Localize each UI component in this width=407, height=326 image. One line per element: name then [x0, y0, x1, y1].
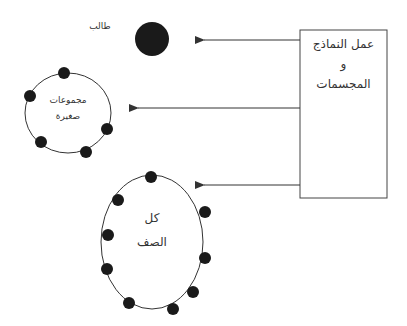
source-box-line3: المجسمات — [300, 74, 387, 94]
small-groups-label-line1: مجموعات — [38, 92, 98, 108]
source-box-label: عمل النماذج و المجسمات — [300, 34, 387, 94]
student-dot — [135, 22, 169, 56]
whole-class-label-line2: الصف — [124, 230, 180, 254]
student-label: طالب — [80, 21, 120, 31]
small-groups-label-line2: صغيرة — [38, 108, 98, 124]
small-groups-label: مجموعات صغيرة — [38, 92, 98, 124]
whole-class-label-line1: كل — [124, 206, 180, 230]
whole-class-label: كل الصف — [124, 206, 180, 254]
source-box-line1: عمل النماذج — [300, 34, 387, 54]
source-box-line2: و — [300, 54, 387, 74]
